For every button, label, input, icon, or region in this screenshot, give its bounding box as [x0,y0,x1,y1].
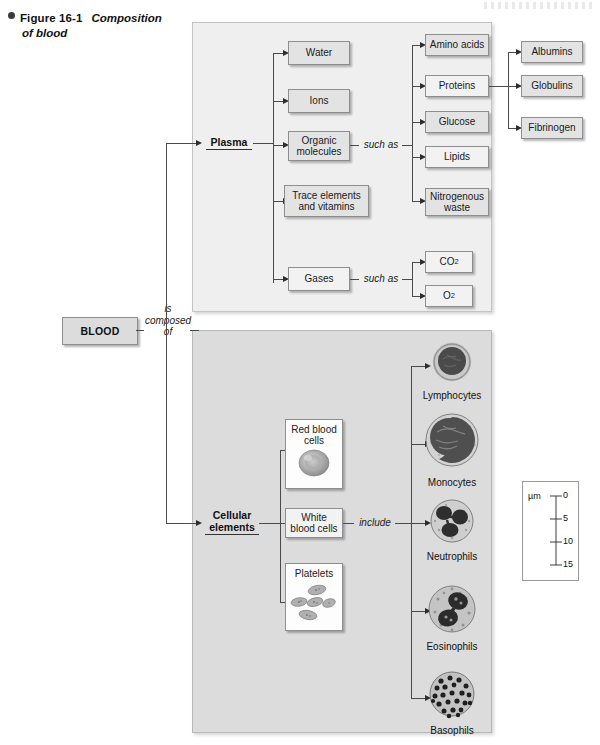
cell-lymphocytes: Lymphocytes [414,339,490,401]
such-as-label-organic: such as [358,139,404,151]
include-dash-right [395,523,412,524]
protein-types-distributor [508,52,509,129]
cell-label-eosinophils: Eosinophils [410,641,494,652]
blood-connector-label: is composed of [143,303,193,338]
box-trace-elements-line2: and vitamins [298,201,354,212]
basophil-micrograph [425,668,479,720]
plasma-out-line [253,143,274,144]
connector-is: is [143,303,193,315]
box-co2-base: CO [439,256,454,267]
cell-basophils: Basophils [412,668,492,736]
trunk-line-up [166,143,167,330]
plasma-arrow-icon [196,140,202,146]
cell-eosinophils: Eosinophils [410,582,494,652]
plasma-branch-line [166,143,196,144]
cell-label-lymphocytes: Lymphocytes [414,390,490,401]
box-organic-molecules-line1: Organic [301,135,336,146]
box-lipids: Lipids [425,146,489,168]
scale-tick-15: 15 [563,559,573,569]
box-globulins: Globulins [521,75,583,97]
cell-monocytes: Monocytes [408,410,496,488]
cellular-out-line [259,523,281,524]
box-red-blood-cells-line1: Red blood [291,424,337,435]
box-co2-subscript: 2 [454,258,458,266]
cell-label-monocytes: Monocytes [408,477,496,488]
monocyte-micrograph [419,410,485,472]
cellular-node-label: Cellular elements [205,509,259,535]
box-nitrogenous-waste-line2: waste [444,202,470,213]
box-nitrogenous-waste-line1: Nitrogenous [430,191,484,202]
neutrophil-micrograph [426,496,478,546]
box-nitrogenous-waste: Nitrogenous waste [425,188,489,216]
proteins-out-line [489,86,509,87]
bullet-dot-icon [8,12,15,19]
box-glucose: Glucose [425,111,489,133]
box-white-blood-cells: White blood cells [285,508,343,538]
figure-title-line1: Composition [91,12,161,24]
box-organic-molecules: Organic molecules [288,131,350,161]
plasma-distributor-line [273,53,274,283]
lymphocyte-micrograph [429,339,475,385]
box-red-blood-cells: Red blood cells [285,419,343,489]
box-ions: Ions [288,89,350,113]
cellular-node-label-line1: Cellular [213,509,252,521]
box-gases: Gases [288,267,350,291]
scale-tick-10: 10 [563,536,573,546]
box-fibrinogen: Fibrinogen [521,117,583,139]
organic-examples-distributor [412,45,413,201]
figure-caption: Figure 16-1Composition of blood [8,8,183,39]
red-blood-cell-micrograph [294,448,334,478]
box-proteins: Proteins [425,75,489,97]
box-amino-acids: Amino acids [425,34,489,56]
box-red-blood-cells-line2: cells [304,435,324,446]
figure-title-line2: of blood [22,27,183,39]
box-o2: O2 [425,285,473,307]
trunk-line-down [166,330,167,523]
gases-distributor [412,262,413,297]
box-o2-subscript: 2 [451,292,455,300]
cell-label-neutrophils: Neutrophils [412,551,492,562]
blood-root-box: BLOOD [62,317,138,345]
box-organic-molecules-line2: molecules [296,146,341,157]
cellular-distributor-line [280,450,281,602]
blood-connector-dash-right [190,330,199,331]
box-white-blood-cells-line1: White [301,512,327,523]
box-platelets-label: Platelets [295,568,333,579]
cellular-branch-line [166,523,196,524]
platelets-micrograph [289,581,339,625]
scan-artifact [484,2,596,9]
scale-bar: µm 0 5 10 15 [522,481,579,581]
box-o2-base: O [443,290,451,301]
box-co2: CO2 [425,251,473,273]
include-label: include [353,517,397,529]
figure-number: Figure 16-1 [20,12,82,24]
box-water: Water [288,41,350,65]
scale-tick-5: 5 [563,513,568,523]
scale-tick-0: 0 [563,490,568,500]
connector-composed: composed [143,315,193,327]
box-albumins: Albumins [521,41,583,63]
cellular-node-label-line2: elements [209,521,255,533]
cellular-arrow-icon [196,520,202,526]
box-trace-elements: Trace elements and vitamins [284,185,369,217]
connector-of: of [143,326,193,338]
box-trace-elements-line1: Trace elements [292,190,361,201]
such-as-label-gases: such as [358,273,404,285]
plasma-node-label: Plasma [206,136,252,150]
box-white-blood-cells-line2: blood cells [290,523,337,534]
cell-neutrophils: Neutrophils [412,496,492,562]
eosinophil-micrograph [423,582,481,636]
box-platelets: Platelets [285,563,343,631]
cell-label-basophils: Basophils [412,725,492,736]
